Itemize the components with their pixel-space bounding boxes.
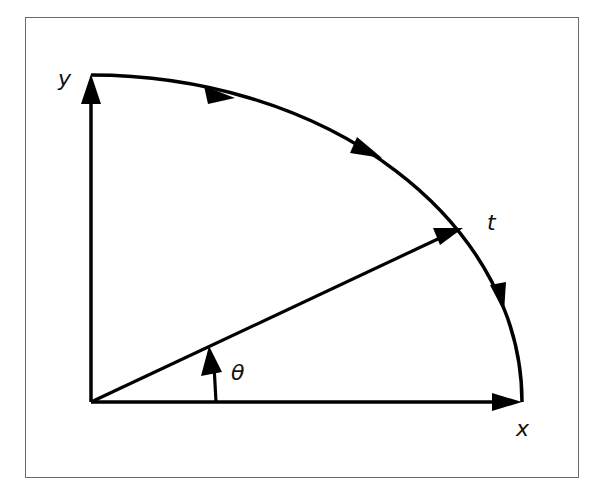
curve-arrow-icon (490, 282, 506, 312)
y-axis-arrow-icon (81, 74, 101, 104)
angle-theta-indicator (201, 346, 222, 402)
polar-diagram: y x θ t (0, 0, 599, 493)
x-axis-label: x (515, 416, 530, 441)
y-axis-label: y (57, 66, 72, 91)
radius-arrow-icon (433, 228, 463, 245)
y-axis (81, 74, 101, 402)
point-label: t (487, 210, 497, 235)
radius-vector (91, 228, 463, 402)
angle-label: θ (231, 360, 245, 385)
trajectory-curve (91, 75, 522, 402)
x-axis-arrow-icon (492, 393, 522, 411)
curve-arrow-icon (350, 137, 382, 158)
x-axis (91, 393, 522, 411)
